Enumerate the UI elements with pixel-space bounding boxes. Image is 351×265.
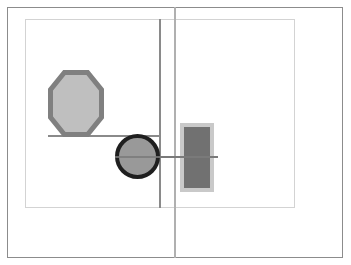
vertical-guide-light[interactable] <box>174 7 176 258</box>
vertical-guide-dark[interactable] <box>159 19 161 208</box>
octagon-shape[interactable] <box>48 70 104 137</box>
shape-canvas <box>0 0 351 265</box>
horizontal-guide-lower-overlay <box>115 156 218 158</box>
octagon-path <box>51 73 102 135</box>
